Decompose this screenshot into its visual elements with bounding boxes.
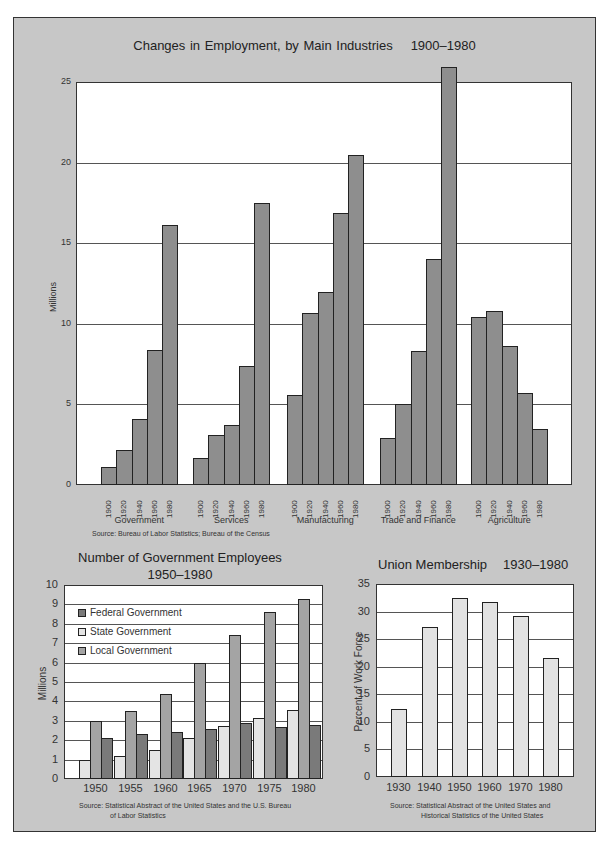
legend-item: Local Government: [78, 645, 172, 656]
legend-swatch: [78, 647, 86, 655]
y-tick-label: 25: [47, 76, 71, 86]
gov-chart-title: Number of Government Employees 1950–1980: [40, 549, 320, 583]
bar: [302, 313, 318, 485]
bar: [275, 727, 287, 779]
bar: [287, 395, 303, 485]
x-tick-label: 1965: [180, 782, 220, 794]
legend-item: State Government: [78, 626, 171, 637]
gov-chart-y-label: Millions: [37, 659, 48, 709]
bar: [348, 155, 364, 485]
bar: [309, 725, 321, 779]
bar: [136, 734, 148, 779]
gridline: [377, 612, 573, 613]
legend-swatch: [78, 609, 86, 617]
x-tick-label: 1955: [111, 782, 151, 794]
main-chart-title-years: 1900–1980: [411, 38, 476, 53]
union-chart-y-label: Percent of Work Force: [353, 622, 364, 742]
bar: [486, 311, 502, 485]
bar: [318, 292, 334, 485]
bar: [333, 213, 349, 485]
union-chart-source: Source: Statistical Abstract of the Unit…: [390, 801, 550, 821]
bar: [426, 259, 442, 485]
gridline: [377, 639, 573, 640]
y-tick-label: 20: [47, 157, 71, 167]
legend-item: Federal Government: [78, 607, 182, 618]
x-tick-label: 1980: [531, 781, 571, 793]
gov-chart-title-line1: Number of Government Employees: [40, 549, 320, 566]
bar: [147, 350, 163, 485]
y-tick-label: 35: [346, 577, 370, 589]
union-chart-title-text: Union Membership: [378, 557, 487, 572]
bar: [471, 317, 487, 485]
y-tick-label: 9: [34, 597, 58, 609]
bar: [441, 67, 457, 485]
y-tick-label: 10: [34, 578, 58, 590]
bar: [239, 366, 255, 485]
gov-chart-source-line1: Source: Statistical Abstract of the Unit…: [79, 801, 291, 811]
bar: [171, 732, 183, 779]
gridline: [65, 604, 322, 605]
bar: [132, 419, 148, 485]
bar: [391, 709, 407, 777]
x-tick-label: 1970: [215, 782, 255, 794]
y-tick-label: 30: [346, 605, 370, 617]
y-tick-label: 0: [47, 479, 71, 489]
bar: [254, 203, 270, 485]
bar: [395, 404, 411, 485]
y-tick-label: 2: [34, 733, 58, 745]
y-tick-label: 3: [34, 714, 58, 726]
y-tick-label: 15: [47, 237, 71, 247]
bar: [502, 346, 518, 485]
bar: [101, 467, 117, 485]
y-tick-label: 0: [34, 772, 58, 784]
y-tick-label: 0: [346, 770, 370, 782]
bar: [240, 723, 252, 779]
union-chart-source-line2: Historical Statistics of the United Stat…: [390, 811, 550, 821]
union-chart-title-years: 1930–1980: [503, 557, 568, 572]
x-tick-label: 1950: [76, 782, 116, 794]
bar: [380, 438, 396, 485]
main-chart-title: Changes in Employment, by Main Industrie…: [0, 38, 609, 53]
legend-label: State Government: [90, 626, 171, 637]
union-chart-source-line1: Source: Statistical Abstract of the Unit…: [390, 801, 550, 811]
gov-chart-title-line2: 1950–1980: [40, 566, 320, 583]
bar: [452, 598, 468, 777]
bar: [116, 450, 132, 485]
bar: [532, 429, 548, 485]
bar: [101, 738, 113, 779]
main-chart-y-label: Millions: [48, 272, 58, 322]
main-chart-source: Source: Bureau of Labor Statistics; Bure…: [92, 530, 270, 537]
bar: [193, 458, 209, 485]
bar: [208, 435, 224, 485]
bar: [513, 616, 529, 777]
y-tick-label: 5: [346, 742, 370, 754]
bar: [224, 425, 240, 485]
bar: [411, 351, 427, 485]
y-tick-label: 1: [34, 753, 58, 765]
gov-chart-source: Source: Statistical Abstract of the Unit…: [79, 801, 291, 821]
bar: [543, 658, 559, 777]
bar: [482, 602, 498, 777]
y-tick-label: 8: [34, 617, 58, 629]
category-label: Agriculture: [451, 515, 568, 525]
legend-label: Federal Government: [90, 607, 182, 618]
gridline: [77, 163, 571, 164]
gridline: [77, 243, 571, 244]
main-chart-title-text: Changes in Employment, by Main Industrie…: [133, 38, 392, 53]
union-chart-title: Union Membership1930–1980: [378, 557, 578, 572]
bar: [422, 627, 438, 777]
bar: [205, 729, 217, 779]
gov-chart-source-line2: of Labor Statistics: [79, 811, 291, 821]
legend-swatch: [78, 628, 86, 636]
bar: [162, 225, 178, 485]
x-tick-label: 1980: [284, 782, 324, 794]
y-tick-label: 7: [34, 636, 58, 648]
bar: [517, 393, 533, 485]
gridline: [65, 624, 322, 625]
legend-label: Local Government: [90, 645, 172, 656]
y-tick-label: 5: [47, 398, 71, 408]
